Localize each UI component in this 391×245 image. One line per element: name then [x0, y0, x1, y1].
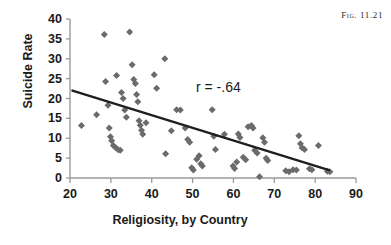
- x-axis-tick-label: 50: [186, 187, 200, 201]
- data-point: [256, 173, 263, 180]
- data-point: [93, 111, 100, 118]
- x-axis-tick-label: 30: [104, 187, 118, 201]
- data-point: [102, 78, 109, 85]
- data-point: [101, 31, 108, 38]
- y-axis-tick-label: 35: [22, 32, 62, 46]
- x-axis-tick-label: 70: [267, 187, 281, 201]
- regression-trendline: [72, 91, 329, 171]
- y-axis-tick-label: 25: [22, 72, 62, 86]
- data-point: [212, 146, 219, 153]
- y-axis-tick-label: 40: [22, 12, 62, 26]
- y-axis-tick-label: 20: [22, 92, 62, 106]
- data-point: [129, 61, 136, 68]
- data-point: [126, 29, 133, 36]
- data-point: [133, 91, 140, 98]
- data-point: [118, 89, 125, 96]
- data-point: [113, 72, 120, 79]
- data-point: [315, 142, 322, 149]
- figure-root: Fig. 11.21 Suicide Rate Religiosity, by …: [0, 0, 391, 245]
- x-axis-tick-label: 20: [63, 187, 77, 201]
- data-point: [153, 85, 160, 92]
- y-axis-tick-label: 30: [22, 52, 62, 66]
- x-axis-tick-label: 80: [308, 187, 322, 201]
- data-point: [209, 106, 216, 113]
- data-point: [123, 114, 130, 121]
- y-axis-tick-label: 10: [22, 131, 62, 145]
- correlation-annotation: r = -.64: [196, 79, 241, 95]
- data-point: [162, 150, 169, 157]
- x-axis-tick-label: 90: [349, 187, 363, 201]
- data-point: [151, 71, 158, 78]
- y-axis-tick-label: 0: [22, 171, 62, 185]
- y-axis-tick-label: 5: [22, 151, 62, 165]
- data-point: [134, 98, 141, 105]
- data-point: [161, 55, 168, 62]
- data-point: [78, 122, 85, 129]
- scatter-chart: Suicide Rate Religiosity, by Country 051…: [0, 0, 391, 245]
- data-point: [106, 124, 113, 131]
- x-axis-title: Religiosity, by Country: [0, 213, 360, 227]
- y-axis-tick-label: 15: [22, 111, 62, 125]
- data-point: [295, 132, 302, 139]
- x-axis-tick-label: 60: [226, 187, 240, 201]
- data-point: [120, 95, 127, 102]
- x-axis-tick-label: 40: [145, 187, 159, 201]
- data-point: [168, 127, 175, 134]
